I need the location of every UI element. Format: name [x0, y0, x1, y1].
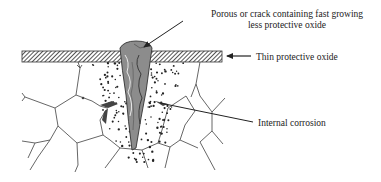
grain-boundary-oxides — [82, 97, 168, 124]
porous-oxide-label-line1: Porous or crack containing fast growing — [192, 9, 381, 20]
thin-oxide-label: Thin protective oxide — [256, 52, 338, 63]
porous-oxide-nodule — [120, 41, 152, 150]
internal-corrosion-pointer-line — [160, 103, 253, 122]
porous-oxide-label: Porous or crack containing fast growing … — [192, 9, 381, 31]
internal-corrosion-label: Internal corrosion — [258, 118, 326, 129]
porous-oxide-label-line2: less protective oxide — [192, 20, 381, 31]
porous-oxide-pointer-arrow — [144, 21, 183, 47]
